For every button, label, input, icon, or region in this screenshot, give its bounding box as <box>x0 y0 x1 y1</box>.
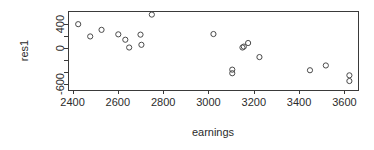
data-points <box>76 12 352 84</box>
data-point <box>347 78 352 83</box>
data-point <box>230 71 235 76</box>
data-point <box>307 68 312 73</box>
data-point <box>257 54 262 59</box>
x-axis-tick-label: 2400 <box>60 96 84 108</box>
data-point <box>138 32 143 37</box>
x-axis-tick-label: 3200 <box>242 96 266 108</box>
x-axis-title: earnings <box>192 126 235 138</box>
plot-frame <box>69 12 359 91</box>
x-axis-tick-label: 2600 <box>106 96 130 108</box>
plot-canvas: 4000-6002400260028003000320034003600earn… <box>0 0 374 150</box>
data-point <box>246 40 251 45</box>
data-point <box>88 34 93 39</box>
data-point <box>323 63 328 68</box>
data-point <box>99 27 104 32</box>
x-axis-tick-label: 2800 <box>151 96 175 108</box>
y-axis-title: res1 <box>18 40 30 61</box>
x-axis-tick-label: 3400 <box>287 96 311 108</box>
scatter-plot-figure: 4000-6002400260028003000320034003600earn… <box>0 0 374 150</box>
x-axis-tick-label: 3000 <box>196 96 220 108</box>
data-point <box>211 31 216 36</box>
data-point <box>116 32 121 37</box>
data-point <box>347 73 352 78</box>
y-axis-tick-label: 0 <box>54 45 66 51</box>
data-point <box>76 22 81 27</box>
data-point <box>123 37 128 42</box>
y-axis-tick-label: -600 <box>54 73 66 95</box>
data-point <box>139 42 144 47</box>
y-axis-tick-label: 400 <box>54 15 66 33</box>
x-axis-tick-label: 3600 <box>332 96 356 108</box>
data-point <box>149 12 154 17</box>
data-point <box>127 45 132 50</box>
